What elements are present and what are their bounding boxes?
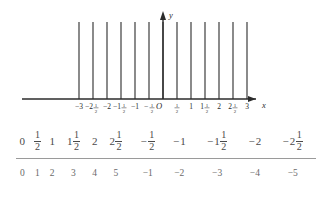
svg-text:2: 2 [151, 109, 154, 114]
table-row-bottom: 0 1 2 3 4 5 −1 −2 −3 −4 −5 [16, 159, 316, 183]
value-fraction: 12 [148, 130, 155, 152]
value-sign: − [173, 136, 179, 147]
x-tick-label-2: 2 [217, 102, 221, 111]
plot-svg: x y −3 −2 1 2 [0, 0, 332, 122]
svg-text:−1: −1 [113, 102, 121, 111]
value-expression: 1 [49, 136, 55, 148]
value-expression: −112 [207, 130, 227, 152]
fraction-denominator: 2 [115, 141, 122, 153]
svg-text:1: 1 [200, 102, 204, 111]
table-cell-bottom-4: 4 [88, 159, 101, 183]
x-tick-label-neg1: −1 [131, 102, 139, 111]
value-sign: − [207, 136, 213, 147]
x-tick-label-1: 1 [189, 102, 193, 111]
fraction-denominator: 2 [148, 141, 155, 153]
x-tick-label-3: 3 [245, 102, 249, 111]
table-cell-bottom-8: −3 [194, 159, 240, 183]
value-expression: 112 [67, 130, 80, 152]
value-whole: 1 [180, 136, 186, 147]
fraction-numerator: 1 [115, 130, 122, 141]
x-tick-label-neg2half: −2 1 2 [85, 102, 98, 114]
table-cell-top-4: 2 [88, 126, 101, 158]
table-cell-bottom-0: 0 [16, 159, 29, 183]
table-cell-top-1: 12 [29, 126, 46, 158]
value-whole: 1 [49, 136, 55, 147]
table-row-top: 0 12 1 112 2 212 −12 −1 −112 −2 −212 [16, 126, 316, 158]
value-fraction: 12 [73, 130, 80, 152]
x-tick-label-2half: 2 1 2 [228, 102, 237, 114]
value-expression: 2 [92, 136, 98, 148]
table-cell-bottom-5: 5 [101, 159, 131, 183]
value-whole: 1 [67, 136, 73, 147]
svg-text:2: 2 [123, 109, 126, 114]
fraction-numerator: 1 [73, 130, 80, 141]
svg-text:1: 1 [95, 103, 98, 108]
value-whole: 2 [92, 136, 98, 147]
table-cell-top-0: 0 [16, 126, 29, 158]
fraction-numerator: 1 [148, 130, 155, 141]
fraction-numerator: 1 [296, 130, 303, 141]
fraction-denominator: 2 [34, 141, 41, 153]
x-tick-label-neg3: −3 [75, 102, 83, 111]
svg-text:1: 1 [176, 103, 179, 108]
svg-text:1: 1 [123, 103, 126, 108]
fraction-numerator: 1 [34, 130, 41, 141]
impulse-train-figure: x y −3 −2 1 2 [0, 0, 332, 122]
value-expression: 12 [33, 130, 41, 152]
x-axis-arrowhead [248, 96, 256, 102]
x-tick-label-neghalf: − 1 2 [144, 102, 155, 114]
x-tick-label-half: 1 2 [175, 103, 180, 114]
y-axis-arrowhead [160, 11, 166, 20]
table-cell-bottom-9: −4 [240, 159, 269, 183]
x-tick-label-neg1half: −1 1 2 [113, 102, 126, 114]
svg-text:2: 2 [95, 109, 98, 114]
table-cell-top-6: −12 [131, 126, 165, 158]
svg-text:1: 1 [234, 103, 237, 108]
value-mapping-table: 0 12 1 112 2 212 −12 −1 −112 −2 −212 0 1… [16, 126, 316, 183]
origin-label: O [156, 101, 162, 111]
table-cell-bottom-10: −5 [269, 159, 316, 183]
svg-text:1: 1 [151, 103, 154, 108]
svg-text:−2: −2 [85, 102, 93, 111]
value-expression: 0 [20, 136, 26, 148]
table-cell-top-5: 212 [101, 126, 131, 158]
x-tick-label-neg2: −2 [103, 102, 111, 111]
svg-text:2: 2 [206, 109, 209, 114]
table-cell-top-8: −112 [194, 126, 240, 158]
fraction-denominator: 2 [220, 141, 227, 153]
value-expression: −12 [140, 130, 155, 152]
value-sign: − [249, 136, 255, 147]
value-expression: 212 [109, 130, 122, 152]
svg-text:1: 1 [206, 103, 209, 108]
x-axis-label: x [261, 100, 266, 110]
value-whole: 1 [214, 136, 220, 147]
value-whole: 2 [290, 136, 296, 147]
value-expression: −212 [283, 130, 303, 152]
table-cell-top-10: −212 [269, 126, 316, 158]
svg-text:2: 2 [176, 109, 179, 114]
value-fraction: 12 [115, 130, 122, 152]
svg-text:2: 2 [234, 109, 237, 114]
correspondence-table: 0 12 1 112 2 212 −12 −1 −112 −2 −212 0 1… [0, 126, 332, 202]
table-cell-bottom-7: −2 [165, 159, 194, 183]
value-sign: − [140, 136, 146, 147]
x-tick-label-1half: 1 1 2 [200, 102, 209, 114]
value-expression: −2 [249, 136, 262, 148]
value-whole: 0 [20, 136, 26, 147]
fraction-denominator: 2 [73, 141, 80, 153]
value-sign: − [283, 136, 289, 147]
fraction-denominator: 2 [296, 141, 303, 153]
table-cell-top-9: −2 [240, 126, 269, 158]
table-cell-bottom-3: 3 [59, 159, 89, 183]
value-expression: −1 [173, 136, 186, 148]
table-cell-bottom-2: 2 [46, 159, 59, 183]
impulse-stems [79, 22, 247, 99]
svg-text:2: 2 [228, 102, 232, 111]
table-cell-top-7: −1 [165, 126, 194, 158]
value-whole: 2 [109, 136, 115, 147]
y-axis-label: y [168, 10, 173, 20]
value-whole: 2 [256, 136, 262, 147]
value-fraction: 12 [34, 130, 41, 152]
svg-text:−: − [144, 102, 148, 111]
value-fraction: 12 [220, 130, 227, 152]
